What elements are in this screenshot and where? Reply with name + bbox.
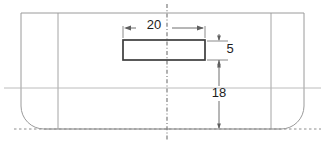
dim18-arrow-bottom-icon [217,124,221,130]
technical-drawing-canvas: 20 5 18 [0,0,325,148]
dim5-value-text: 5 [226,41,233,56]
dim20-value-text: 20 [147,17,161,32]
outline-bottom-left-fillet [21,106,44,129]
dim20-arrow-right-icon [197,26,204,31]
drawing-svg: 20 5 18 [0,0,325,148]
dim18-value-text: 18 [212,85,226,100]
dim20-arrow-left-icon [124,26,131,31]
dim5-arrow-top-icon [217,36,221,42]
outline-bottom-right-fillet [281,106,304,129]
slot-rectangle [123,40,205,60]
